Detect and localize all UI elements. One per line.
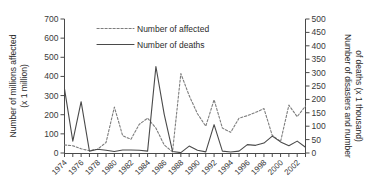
right-tick-label: 400 — [312, 41, 326, 51]
right-tick-label: 300 — [312, 68, 326, 78]
left-axis: 0100200300400500600700 — [44, 14, 64, 158]
x-tick-label-year: 1984 — [133, 158, 152, 177]
right-tick-label: 250 — [312, 81, 326, 91]
right-tick-label: 200 — [312, 94, 326, 104]
left-axis-title-line1: Number of millions affected — [8, 34, 18, 137]
x-tick-label-year: 1974 — [50, 158, 69, 177]
right-axis-title-line2: of deaths (x 1 thousand) — [354, 50, 364, 142]
left-axis-title-line2: (x 1 million) — [19, 64, 29, 108]
x-tick-label-year: 1988 — [166, 158, 185, 177]
series-line-number-of-deaths — [65, 66, 306, 152]
x-tick-label-year: 1996 — [233, 158, 252, 177]
legend-label-affected: Number of affected — [137, 24, 209, 34]
right-axis-title-line1: Number of disasters and number — [343, 34, 353, 158]
chart-figure: 0100200300400500600700 05010015020025030… — [0, 0, 371, 191]
left-tick-label: 100 — [44, 129, 58, 139]
disasters-line-chart: 0100200300400500600700 05010015020025030… — [0, 0, 371, 191]
x-tick-label-year: 1990 — [183, 158, 202, 177]
right-tick-label: 150 — [312, 108, 326, 118]
x-tick-label-year: 1976 — [67, 158, 86, 177]
x-tick-label-year: 1980 — [100, 158, 119, 177]
left-axis-title: Number of millions affected (x 1 million… — [8, 34, 29, 137]
x-tick-label-year: 1994 — [216, 158, 235, 177]
x-tick-label-year: 2002 — [283, 158, 302, 177]
right-tick-label: 500 — [312, 14, 326, 24]
right-tick-label: 100 — [312, 121, 326, 131]
chart-legend: Number of affected Number of deaths — [97, 24, 209, 50]
left-tick-label: 200 — [44, 110, 58, 120]
left-tick-label: 400 — [44, 71, 58, 81]
x-axis: 1974197619781980198219841986198819901992… — [50, 153, 306, 177]
x-tick-label-year: 1986 — [150, 158, 169, 177]
x-tick-label-year: 1978 — [83, 158, 102, 177]
x-tick-label-year: 1998 — [249, 158, 268, 177]
left-tick-label: 300 — [44, 91, 58, 101]
left-tick-label: 600 — [44, 33, 58, 43]
right-tick-label: 350 — [312, 54, 326, 64]
right-tick-label: 0 — [312, 148, 317, 158]
x-tick-label-year: 1982 — [116, 158, 135, 177]
left-tick-label: 500 — [44, 52, 58, 62]
right-tick-label: 450 — [312, 27, 326, 37]
legend-label-deaths: Number of deaths — [137, 40, 205, 50]
right-tick-label: 50 — [312, 135, 322, 145]
series-group — [65, 66, 306, 152]
x-tick-label-year: 1992 — [200, 158, 219, 177]
left-tick-label: 0 — [54, 148, 59, 158]
right-axis: 050100150200250300350400450500 — [306, 14, 326, 158]
left-tick-label: 700 — [44, 14, 58, 24]
series-line-number-of-affected — [65, 74, 306, 152]
right-axis-title: Number of disasters and number of deaths… — [343, 34, 364, 158]
x-tick-label-year: 2000 — [266, 158, 285, 177]
